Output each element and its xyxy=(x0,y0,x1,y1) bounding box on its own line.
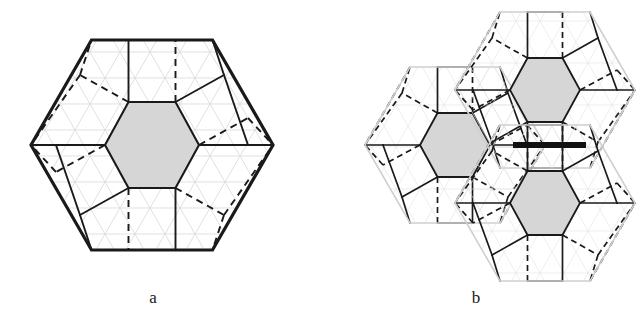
panel-a-caption: a xyxy=(133,288,173,308)
panel-b-caption: b xyxy=(456,288,496,308)
panel-a xyxy=(31,40,273,250)
panel-b xyxy=(365,12,635,281)
tiling-diagram-svg xyxy=(0,0,643,330)
figure-container: a b xyxy=(0,0,643,330)
